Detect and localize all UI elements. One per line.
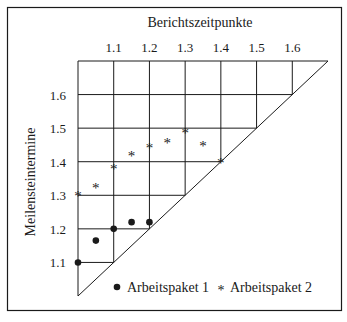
diagonal-line [78, 61, 328, 296]
legend-asterisk-icon: * [218, 283, 225, 298]
y-tick-label: 1.4 [50, 155, 67, 170]
x-tick-label: 1.1 [106, 40, 122, 55]
x-tick-label: 1.6 [284, 40, 301, 55]
data-point-asterisk: * [146, 140, 154, 156]
grid [78, 61, 328, 296]
x-tick-label: 1.5 [248, 40, 264, 55]
y-tick-label: 1.1 [50, 255, 66, 270]
data-point-asterisk: * [181, 125, 189, 141]
x-tick-label: 1.4 [213, 40, 230, 55]
legend-label-arbeitspaket-2: Arbeitspaket 2 [230, 280, 312, 295]
data-point-dot [93, 237, 100, 244]
milestone-trend-chart: Berichtszeitpunkte 1.11.21.31.41.51.6 1.… [0, 0, 347, 322]
y-tick-label: 1.3 [50, 188, 66, 203]
data-point-asterisk: * [92, 180, 100, 196]
x-tick-label: 1.3 [177, 40, 193, 55]
data-point-asterisk: * [110, 161, 118, 177]
legend-label-arbeitspaket-1: Arbeitspaket 1 [127, 280, 209, 295]
data-point-asterisk: * [164, 135, 172, 151]
y-tick-labels: 1.61.51.41.31.21.1 [50, 88, 67, 271]
data-point-dot [75, 259, 82, 266]
data-point-asterisk: * [199, 138, 207, 154]
y-tick-label: 1.6 [50, 88, 67, 103]
x-tick-labels: 1.11.21.31.41.51.6 [106, 40, 301, 55]
x-axis-title: Berichtszeitpunkte [148, 15, 253, 30]
legend: Arbeitspaket 1 * Arbeitspaket 2 [114, 280, 312, 298]
data-point-asterisk: * [128, 148, 136, 164]
data-point-dot [146, 219, 153, 226]
data-point-asterisk: * [217, 155, 225, 171]
y-tick-label: 1.5 [50, 121, 66, 136]
y-axis-title: Meilensteintermine [23, 128, 38, 237]
data-point-dot [128, 219, 135, 226]
x-tick-label: 1.2 [141, 40, 157, 55]
legend-dot-icon [114, 284, 121, 291]
data-point-dot [110, 226, 117, 233]
y-tick-label: 1.2 [50, 222, 66, 237]
data-point-asterisk: * [74, 188, 82, 204]
